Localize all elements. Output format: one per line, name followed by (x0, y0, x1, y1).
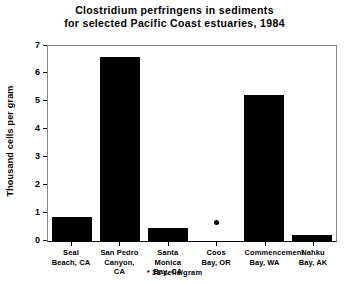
x-axis-category-label-line: Seal (63, 248, 79, 257)
x-axis-ticks (47, 242, 337, 246)
x-axis-tick-mark (168, 242, 169, 246)
x-axis-category-label-line: Santa Monica (155, 248, 181, 267)
bar-slot (244, 46, 284, 241)
chart-title: Clostridium perfringens in sediments for… (0, 4, 349, 30)
chart-footnote: * 31 cells/gram (0, 268, 349, 277)
x-axis-category-label-line: Bay, WA (245, 258, 285, 268)
y-axis-tick-label: 5 (35, 96, 40, 105)
y-axis-tick-label: 1 (35, 207, 40, 216)
bar (292, 235, 332, 241)
data-point-marker (214, 220, 219, 225)
y-axis-ticks: 01234567 (0, 45, 47, 241)
bar-slot (100, 46, 140, 241)
bar (52, 217, 92, 241)
bar-slot (196, 46, 236, 241)
x-axis-tick-mark (216, 242, 217, 246)
bars-container (48, 46, 336, 241)
x-axis-category-label-line: Beach, CA (51, 258, 91, 268)
x-axis-category-label-line: Bay, OR (196, 258, 236, 268)
x-axis-tick-mark (119, 242, 120, 246)
y-axis-tick-label: 3 (35, 151, 40, 160)
y-axis-tick-label: 0 (35, 235, 40, 244)
bar-slot (292, 46, 332, 241)
chart-title-line-2: for selected Pacific Coast estuaries, 19… (0, 17, 349, 30)
x-axis-tick-mark (71, 242, 72, 246)
bar-slot (52, 46, 92, 241)
plot-area (47, 45, 337, 242)
y-axis-tick-label: 2 (35, 179, 40, 188)
bar (148, 228, 188, 241)
bar (244, 95, 284, 241)
bar (100, 57, 140, 241)
x-axis-category-label-line: San Pedro (100, 248, 138, 257)
bar-slot (148, 46, 188, 241)
y-axis-tick-label: 4 (35, 124, 40, 133)
y-axis-tick-label: 6 (35, 68, 40, 77)
x-axis-tick-mark (313, 242, 314, 246)
y-axis-tick-label: 7 (35, 40, 40, 49)
bar-chart-figure: Clostridium perfringens in sediments for… (0, 0, 349, 284)
x-axis-category-label-line: Bay, AK (293, 258, 333, 268)
x-axis-tick-mark (265, 242, 266, 246)
x-axis-category-label-line: Nahku (301, 248, 324, 257)
x-axis-category-label-line: Coos (207, 248, 226, 257)
chart-title-line-1: Clostridium perfringens in sediments (0, 4, 349, 17)
